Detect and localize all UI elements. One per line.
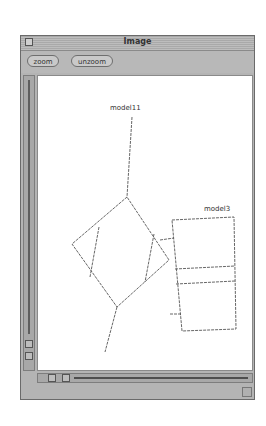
scroll-left-arrow-icon[interactable] bbox=[48, 374, 56, 382]
model11-edge bbox=[127, 117, 132, 197]
tail-edge bbox=[105, 307, 117, 352]
diagram-graphic: model11 model3 bbox=[38, 76, 254, 372]
resize-handle-icon[interactable] bbox=[242, 387, 252, 397]
zoom-button[interactable]: zoom bbox=[27, 55, 59, 67]
unzoom-button[interactable]: unzoom bbox=[71, 55, 113, 67]
image-window: Image zoom unzoom bbox=[20, 35, 255, 400]
model3-label: model3 bbox=[204, 205, 230, 213]
title-bar[interactable]: Image bbox=[21, 36, 254, 51]
diamond-node bbox=[72, 197, 169, 307]
model3-box bbox=[172, 217, 236, 331]
toolbar: zoom unzoom bbox=[21, 51, 254, 73]
scroll-right-arrow-icon[interactable] bbox=[62, 374, 70, 382]
model11-label: model11 bbox=[110, 104, 141, 112]
scroll-up-arrow-icon[interactable] bbox=[25, 340, 33, 348]
vertical-scroll-track[interactable] bbox=[28, 80, 30, 334]
connector-top bbox=[160, 238, 174, 240]
diagram-canvas[interactable]: model11 model3 bbox=[37, 75, 253, 371]
scroll-down-arrow-icon[interactable] bbox=[25, 352, 33, 360]
vertical-scrollbar[interactable] bbox=[23, 75, 35, 371]
horizontal-scroll-track[interactable] bbox=[74, 377, 248, 379]
horizontal-scrollbar[interactable] bbox=[37, 373, 253, 383]
window-title: Image bbox=[21, 37, 254, 46]
